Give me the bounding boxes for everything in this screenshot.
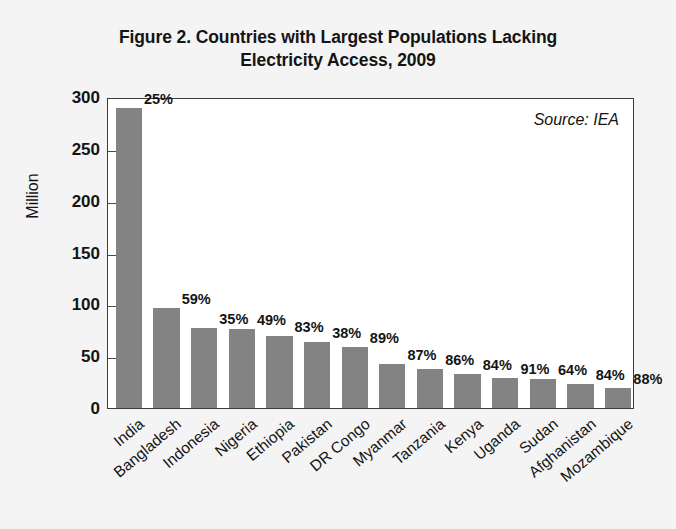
- x-axis-tick-labels: IndiaBangladeshIndonesiaNigeriaEthiopiaP…: [107, 409, 634, 527]
- bar-group[interactable]: 88%: [605, 99, 631, 408]
- page-title-line-1: Figure 2. Countries with Largest Populat…: [0, 26, 676, 49]
- bar-group[interactable]: 83%: [266, 99, 292, 408]
- bar-group[interactable]: 89%: [342, 99, 368, 408]
- y-axis-tick-label: 50: [40, 347, 100, 367]
- bar-group[interactable]: 38%: [304, 99, 330, 408]
- y-axis-tick-label: 200: [40, 192, 100, 212]
- bar[interactable]: [116, 108, 142, 408]
- y-axis-tick-label: 100: [40, 295, 100, 315]
- bar-group[interactable]: 84%: [567, 99, 593, 408]
- y-axis-tick-label: 0: [40, 399, 100, 419]
- bar-series: 25%59%35%49%83%38%89%87%86%84%91%64%84%8…: [108, 99, 633, 408]
- bar-group[interactable]: 25%: [116, 99, 142, 408]
- bar[interactable]: [153, 308, 179, 408]
- bar-group[interactable]: 49%: [229, 99, 255, 408]
- bar-group[interactable]: 86%: [417, 99, 443, 408]
- bar-group[interactable]: 87%: [379, 99, 405, 408]
- bar-group[interactable]: 59%: [153, 99, 179, 408]
- plot-area: Source: IEA 25%59%35%49%83%38%89%87%86%8…: [107, 98, 634, 409]
- bar-group[interactable]: 91%: [492, 99, 518, 408]
- figure-container: { "figure": { "title_line1": "Figure 2. …: [0, 0, 676, 529]
- page-title: Figure 2. Countries with Largest Populat…: [0, 26, 676, 72]
- bar-group[interactable]: 64%: [530, 99, 556, 408]
- y-axis-tick-label: 300: [40, 88, 100, 108]
- bar-group[interactable]: 35%: [191, 99, 217, 408]
- y-axis-tick-label: 250: [40, 140, 100, 160]
- page-title-line-2: Electricity Access, 2009: [0, 49, 676, 72]
- bar-group[interactable]: 84%: [454, 99, 480, 408]
- y-axis-tick-label: 150: [40, 244, 100, 264]
